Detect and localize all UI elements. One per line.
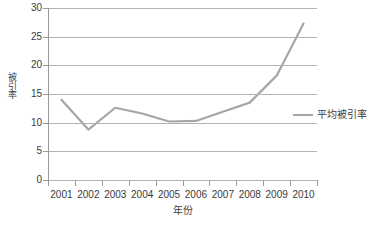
x-tick-mark — [290, 181, 291, 186]
legend: 平均被引率 — [293, 109, 367, 121]
plot-area — [48, 8, 317, 180]
line-chart: 被引率 051015202530 20012002200320042005200… — [0, 0, 392, 226]
gridline — [48, 37, 317, 38]
x-tick-mark — [48, 181, 49, 186]
y-axis-title: 被引率 — [3, 72, 17, 99]
x-tick-mark — [236, 181, 237, 186]
y-tick-label: 25 — [18, 32, 42, 42]
x-tick-mark — [263, 181, 264, 186]
x-tick-mark — [102, 181, 103, 186]
y-tick-mark — [43, 94, 49, 95]
y-tick-label: 15 — [18, 89, 42, 99]
gridline — [48, 151, 317, 152]
x-tick-mark — [209, 181, 210, 186]
y-axis-tick-labels: 051015202530 — [18, 0, 42, 226]
gridline — [48, 94, 317, 95]
legend-label-average-citation-rate: 平均被引率 — [317, 109, 367, 121]
legend-swatch-average-citation-rate — [293, 114, 313, 116]
gridline — [48, 65, 317, 66]
y-tick-mark — [43, 37, 49, 38]
gridline — [48, 8, 317, 9]
x-tick-mark — [75, 181, 76, 186]
x-axis-tick-labels: 2001200220032004200520062007200820092010 — [48, 189, 318, 203]
y-tick-mark — [43, 151, 49, 152]
y-tick-label: 0 — [18, 175, 42, 185]
bottom-caption — [0, 221, 392, 226]
x-tick-mark — [183, 181, 184, 186]
x-tick-label: 2010 — [287, 189, 321, 201]
x-tick-mark — [317, 181, 318, 186]
x-tick-mark — [129, 181, 130, 186]
x-tick-mark — [156, 181, 157, 186]
y-tick-label: 10 — [18, 118, 42, 128]
y-tick-mark — [43, 123, 49, 124]
y-tick-label: 5 — [18, 146, 42, 156]
y-tick-label: 30 — [18, 3, 42, 13]
gridline — [48, 123, 317, 124]
y-tick-mark — [43, 65, 49, 66]
y-tick-label: 20 — [18, 60, 42, 70]
y-tick-mark — [43, 8, 49, 9]
x-axis-title: 年份 — [48, 205, 318, 217]
